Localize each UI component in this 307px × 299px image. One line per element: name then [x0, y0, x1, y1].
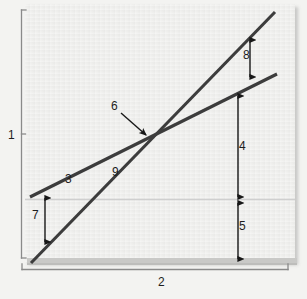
figure-container: 1 2 3 9 6 8 4 5 7: [0, 0, 307, 299]
intersection-callout-arrow: [121, 113, 146, 135]
data-line-3-label: 3: [65, 173, 72, 185]
gap-measure-left-label: 7: [32, 209, 39, 221]
segment-measure-upper-label: 4: [239, 140, 246, 152]
x-axis-label: 2: [158, 276, 165, 288]
y-axis-label: 1: [8, 129, 15, 141]
intersection-label: 6: [111, 100, 118, 112]
data-line-9-label: 9: [112, 166, 119, 178]
chart-overlay: [0, 0, 307, 299]
y-axis-bracket: [22, 10, 27, 258]
panel-base-shadow: [27, 258, 297, 265]
gap-measure-right-label: 8: [243, 49, 250, 61]
segment-measure-lower-label: 5: [239, 220, 246, 232]
